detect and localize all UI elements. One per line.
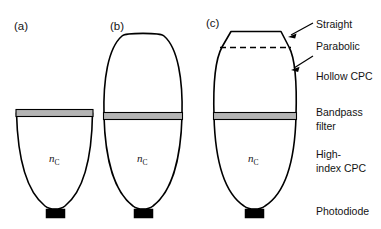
panel-c: (c) nC bbox=[206, 17, 297, 218]
bandpass-filter-b bbox=[104, 113, 183, 120]
panel-a-label: (a) bbox=[14, 20, 28, 32]
annotation-label-parabolic: Parabolic bbox=[316, 40, 360, 52]
panel-c-label: (c) bbox=[206, 17, 220, 29]
annotation-label-straight: Straight bbox=[316, 18, 352, 30]
bandpass-filter-a bbox=[16, 110, 93, 117]
annotation-label-high-index-cpc-line1: High- bbox=[316, 148, 342, 160]
annotation-label-bandpass-filter-line1: Bandpass bbox=[316, 106, 363, 118]
figure-root: (a) nC (b) bbox=[0, 0, 381, 229]
annotation-arrow-straight bbox=[288, 23, 313, 39]
annotation-label-photodiode: Photodiode bbox=[316, 205, 369, 217]
panel-a: (a) nC bbox=[14, 20, 93, 218]
photodiode-a bbox=[46, 209, 65, 218]
photodiode-c bbox=[245, 209, 264, 218]
photodiode-b bbox=[134, 209, 153, 218]
panel-b: (b) nC bbox=[104, 20, 183, 218]
panel-b-label: (b) bbox=[110, 20, 124, 32]
hollow-cpc-body-b bbox=[104, 33, 182, 116]
annotation-label-high-index-cpc-line2: index CPC bbox=[316, 162, 367, 174]
cpc-diagram-svg: (a) nC (b) bbox=[0, 0, 381, 229]
bandpass-filter-c bbox=[214, 113, 297, 120]
annotation-label-hollow-cpc: Hollow CPC bbox=[316, 70, 373, 82]
annotation-label-bandpass-filter-line2: filter bbox=[316, 120, 336, 132]
hollow-cpc-body-c bbox=[214, 32, 296, 117]
